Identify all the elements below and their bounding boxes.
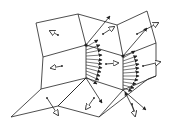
arrow-tail-dot: [131, 103, 133, 105]
fan-arrow-icon: [123, 72, 139, 73]
arrow-tail-dot: [142, 65, 144, 67]
fan-arrow-icon: [86, 55, 102, 56]
hollow-arrow-icon: [143, 62, 160, 66]
fan-origin-node: [84, 43, 87, 46]
mesh-edge: [41, 57, 43, 89]
long-arrow-icon: [123, 90, 146, 110]
fan-arrow-icon: [123, 64, 139, 67]
hollow-arrow-icon: [51, 66, 62, 68]
mesh-edge: [86, 45, 123, 56]
diagram-canvas: [0, 0, 172, 125]
fan-arrow-icon: [86, 62, 102, 64]
mesh-edge: [58, 106, 99, 117]
mesh-edge: [86, 78, 123, 90]
mesh-edge: [78, 14, 86, 45]
mesh-edge: [36, 14, 78, 23]
mesh-edge: [99, 90, 123, 117]
fan-arrow-icon: [86, 59, 102, 60]
mesh-edge: [11, 106, 58, 117]
mesh-edge: [43, 45, 86, 57]
hollow-arrow-icon: [86, 98, 94, 109]
hollow-arrow-icon: [132, 104, 135, 116]
arrow-tail-dot: [102, 33, 104, 35]
mesh-edges: [11, 11, 156, 117]
mesh-edge: [58, 78, 86, 106]
fan-arrow-icon: [86, 65, 102, 68]
arrow-tail-dot: [105, 63, 107, 65]
fan-arrow-icon: [123, 68, 139, 70]
hollow-vectors: [46, 23, 160, 116]
mesh-edge: [147, 11, 156, 43]
long-arrow-icon: [123, 28, 147, 56]
mesh-edge: [41, 78, 86, 89]
arrow-tail-dot: [61, 65, 63, 67]
fan-arrow-icon: [123, 82, 136, 84]
hollow-arrow-icon: [50, 31, 58, 35]
mesh-edge: [78, 14, 117, 25]
fan-arrow-icon: [123, 79, 138, 80]
mesh-edge: [117, 11, 147, 25]
hollow-arrow-icon: [103, 27, 114, 34]
fan-arrow-icon: [86, 40, 98, 47]
mesh-edge: [36, 23, 43, 57]
mesh-edge: [11, 89, 41, 117]
hollow-arrow-icon: [137, 23, 158, 34]
arrow-tail-dot: [93, 97, 95, 99]
fan-arrow-icon: [86, 50, 101, 53]
fan-origin-node: [121, 54, 124, 57]
mesh-vector-diagram: [0, 0, 172, 125]
long-arrow-icon: [86, 16, 110, 45]
mesh-edge: [123, 43, 156, 56]
arrow-tail-dot: [57, 34, 59, 36]
arrow-tail-dot: [136, 33, 138, 35]
mesh-edge: [148, 76, 156, 79]
fan-arrow-icon: [86, 68, 101, 72]
hollow-arrow-icon: [106, 63, 118, 64]
arrow-tail-dot: [46, 97, 48, 99]
fan-arrow-icon: [123, 60, 138, 64]
mesh-edge: [117, 25, 123, 56]
